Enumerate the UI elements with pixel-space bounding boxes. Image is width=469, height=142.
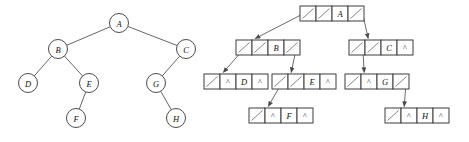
tree-edge-g-h [161, 91, 172, 110]
tree-node-label-f: F [72, 114, 79, 124]
tree-edge-a-b [67, 27, 111, 46]
tree-node-label-h: H [172, 114, 180, 124]
tree-node-h[interactable]: H [167, 109, 186, 128]
pointer-link-group [223, 9, 406, 107]
record-node-c[interactable]: C^ [349, 40, 413, 55]
tree-edge-c-g [162, 56, 179, 76]
record-node-g[interactable]: ^G [345, 74, 409, 89]
record-value-d-2: D [240, 77, 248, 87]
null-marker-h-1: ^ [407, 112, 411, 121]
tree-node-b[interactable]: B [49, 40, 68, 59]
null-marker-h-3: ^ [439, 112, 443, 121]
tree-edge-b-d [34, 56, 51, 76]
null-marker-g-1: ^ [367, 78, 371, 87]
tree-edge-b-e [64, 56, 82, 76]
record-value-a-2: A [336, 9, 343, 19]
tree-node-label-c: C [183, 45, 189, 55]
record-node-group: ABC^^D^E^^G^F^^H^ [204, 6, 449, 123]
tree-node-label-g: G [153, 79, 159, 89]
record-node-a[interactable]: A [300, 6, 364, 21]
tree-node-c[interactable]: C [177, 40, 196, 59]
diagram-svg: ABCDEGFH ABC^^D^E^^G^F^^H^ [0, 0, 469, 142]
null-marker-e-3: ^ [326, 78, 330, 87]
tree-node-label-d: D [24, 79, 32, 89]
tree-node-d[interactable]: D [19, 74, 38, 93]
tree-node-label-a: A [115, 19, 122, 29]
tree-node-a[interactable]: A [110, 14, 129, 33]
figure-canvas: ABCDEGFH ABC^^D^E^^G^F^^H^ [0, 0, 469, 142]
tree-node-g[interactable]: G [147, 74, 166, 93]
tree-node-label-e: E [85, 79, 92, 89]
tree-node-group: ABCDEGFH [19, 14, 196, 128]
null-marker-c-3: ^ [403, 44, 407, 53]
tree-edge-e-f [79, 92, 85, 109]
null-marker-d-1: ^ [226, 78, 230, 87]
tree-node-label-b: B [55, 45, 60, 55]
record-node-e[interactable]: E^ [272, 74, 336, 89]
record-node-b[interactable]: B [236, 40, 300, 55]
record-node-h[interactable]: ^H^ [385, 108, 449, 123]
null-marker-f-3: ^ [303, 112, 307, 121]
tree-node-f[interactable]: F [67, 109, 86, 128]
record-value-g-2: G [382, 77, 388, 87]
record-node-d[interactable]: ^D^ [204, 74, 268, 89]
null-marker-d-3: ^ [258, 78, 262, 87]
null-marker-f-1: ^ [271, 112, 275, 121]
record-value-c-2: C [386, 43, 392, 53]
record-value-e-2: E [308, 77, 315, 87]
tree-edge-a-c [128, 26, 177, 45]
record-value-h-2: H [421, 111, 429, 121]
record-node-f[interactable]: ^F^ [249, 108, 313, 123]
record-value-b-2: B [273, 43, 278, 53]
tree-node-e[interactable]: E [80, 74, 99, 93]
record-value-f-2: F [285, 111, 292, 121]
tree-edge-group [34, 26, 179, 109]
